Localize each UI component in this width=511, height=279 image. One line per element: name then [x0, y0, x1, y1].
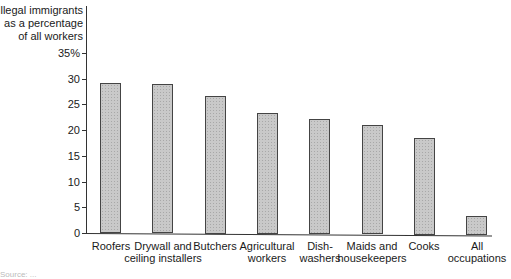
y-tick [82, 53, 87, 54]
bar [414, 138, 435, 235]
y-axis [86, 6, 87, 234]
y-tick-label: 10 [68, 176, 80, 188]
y-tick [82, 207, 87, 208]
y-axis-label-line: as a percentage [0, 17, 83, 30]
bar [466, 216, 487, 235]
y-tick-label: 5 [74, 201, 80, 213]
y-tick-label: 25 [68, 98, 80, 110]
y-tick-label: 0 [74, 227, 80, 239]
bar [309, 119, 330, 234]
y-tick [82, 104, 87, 105]
bar [100, 83, 121, 233]
bar [257, 113, 278, 234]
y-tick [82, 156, 87, 157]
y-axis-label-line: Illegal immigrants [0, 4, 83, 17]
bar [205, 96, 226, 234]
bar [362, 125, 383, 234]
x-category-label: Alloccupations [432, 240, 511, 264]
bar [152, 84, 173, 233]
y-tick-label: 20 [68, 124, 80, 136]
y-tick [82, 233, 87, 234]
y-tick [82, 79, 87, 80]
y-axis-label-line: of all workers [0, 30, 83, 43]
y-tick [82, 182, 87, 183]
y-tick-label: 35% [58, 47, 80, 59]
y-axis-label: Illegal immigrants as a percentage of al… [0, 4, 83, 43]
y-tick [82, 130, 87, 131]
y-tick-label: 30 [68, 73, 80, 85]
y-tick-label: 15 [68, 150, 80, 162]
source-note: Source: ... [0, 270, 36, 279]
